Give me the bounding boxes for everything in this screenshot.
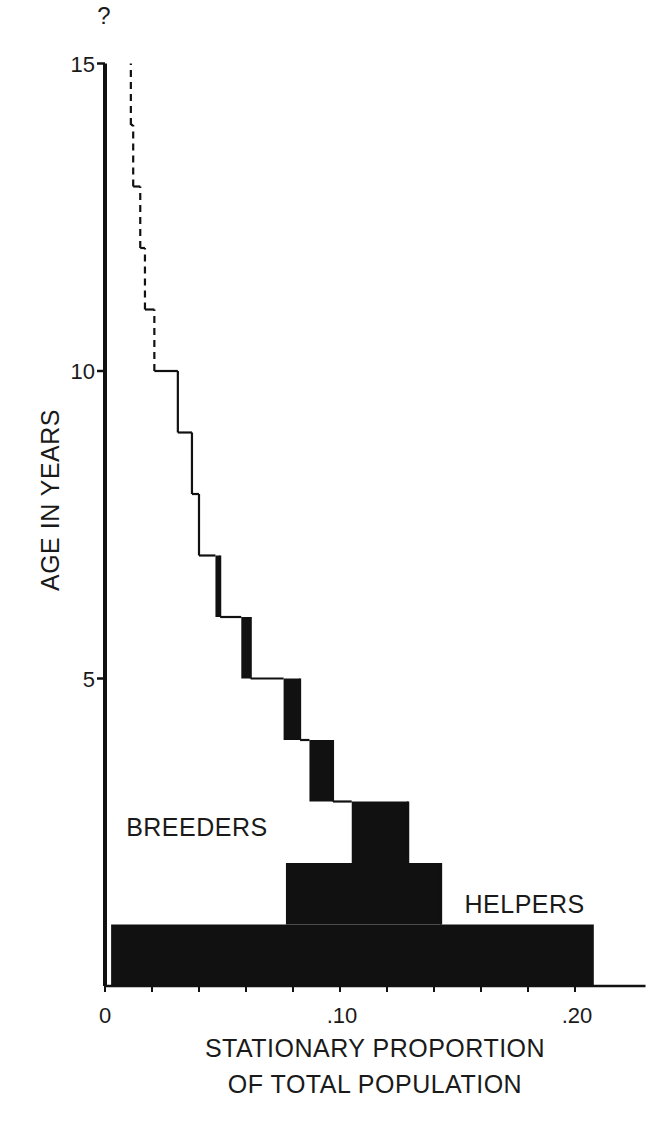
annotation-breeders: BREEDERS	[126, 813, 268, 841]
x-tick-label: .20	[562, 1003, 593, 1028]
y-tick-label: 10	[71, 359, 95, 384]
age-structure-chart: 0.10.2051015 AGE IN YEARS STATIONARY PRO…	[0, 0, 667, 1122]
breeders-staircase-line	[131, 64, 441, 925]
y-axis-top-question-mark: ?	[97, 2, 110, 29]
y-tick-label: 5	[83, 667, 95, 692]
helper-bar-age-4-5	[284, 679, 300, 741]
helper-bar-age-2-3	[352, 802, 408, 864]
x-axis-title-line-2: OF TOTAL POPULATION	[228, 1070, 522, 1098]
x-axis-title-line-1: STATIONARY PROPORTION	[205, 1034, 545, 1062]
helper-bar-age-5-6	[241, 617, 250, 679]
y-axis-title: AGE IN YEARS	[36, 409, 64, 591]
helper-bar-age-1-2	[286, 863, 441, 925]
x-tick-label: 0	[99, 1003, 111, 1028]
helper-bar-age-3-4	[309, 740, 333, 802]
annotation-helpers: HELPERS	[465, 890, 585, 918]
y-tick-label: 15	[71, 52, 95, 77]
helpers-bars	[111, 556, 594, 987]
helper-bar-age-0-1	[111, 925, 594, 987]
x-tick-label: .10	[327, 1003, 358, 1028]
